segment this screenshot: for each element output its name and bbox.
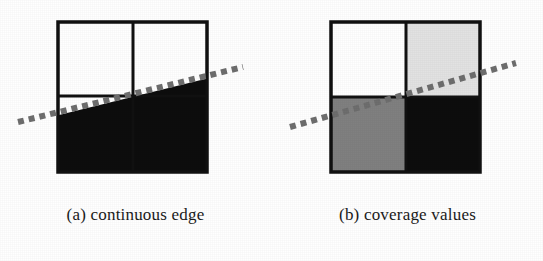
quadrant-top-left [331,22,406,97]
caption-panel-b: (b) coverage values [272,205,543,225]
panel-a-graphic [0,0,271,200]
panel-b-graphic [272,0,543,200]
figure-container: (a) continuous edge (b) coverage values [0,0,543,261]
panel-continuous-edge: (a) continuous edge [0,0,271,261]
panel-coverage-values: (b) coverage values [272,0,543,261]
quadrant-bottom-left [331,97,406,172]
quadrant-bottom-right [406,97,480,172]
caption-panel-a: (a) continuous edge [0,205,271,225]
